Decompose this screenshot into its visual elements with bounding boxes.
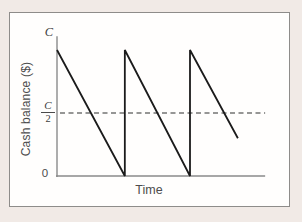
fraction-denominator: 2 [41, 113, 55, 125]
ytick-c-over-2-label: C 2 [41, 100, 55, 125]
y-axis-title: Cash balance ($) [19, 42, 35, 176]
fraction-numerator: C [41, 100, 55, 113]
x-axis-title: Time [119, 183, 179, 197]
figure-page: Cash balance ($) Time C C 2 0 [0, 0, 302, 222]
ytick-zero-label: 0 [38, 167, 52, 179]
ytick-c-label: C [42, 25, 56, 40]
